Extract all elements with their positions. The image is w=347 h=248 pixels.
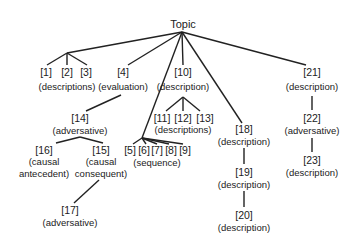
node-id-label: [3] — [80, 67, 92, 78]
node-id-label: [4] — [117, 67, 129, 78]
node-id-label: [5] — [124, 145, 136, 156]
tree-edge — [183, 97, 200, 111]
node-id-label: [16] — [35, 145, 53, 156]
node-relation-label: (description) — [286, 168, 338, 178]
node-id-label: [19] — [235, 167, 253, 178]
node-relation-label: (descriptions) — [154, 125, 211, 135]
node-id-label: [10] — [174, 67, 192, 78]
node-id-label: [2] — [61, 67, 73, 78]
node-id-label: [7] — [151, 145, 163, 156]
tree-edge — [166, 97, 183, 111]
node-relation-label: (causal — [86, 157, 117, 167]
node-relation-label: consequent) — [75, 169, 127, 179]
node-id-label: [13] — [196, 113, 214, 124]
node-id-label: [11] — [154, 113, 171, 124]
tree-edge — [86, 95, 121, 111]
node-relation-label: (evaluation) — [98, 82, 148, 92]
node-id-label: [9] — [179, 145, 191, 156]
node-relation-label: (description) — [286, 82, 338, 92]
node-relation-label: (description) — [157, 82, 209, 92]
node-id-label: [22] — [303, 113, 321, 124]
tree-edge — [74, 180, 99, 203]
node-id-label: [21] — [303, 67, 321, 78]
root-node-topic: Topic — [170, 19, 196, 30]
tree-edge — [182, 32, 183, 65]
node-id-label: [1] — [40, 67, 52, 78]
node-relation-label: (description) — [218, 180, 270, 190]
node-relation-label: antecedent) — [19, 169, 69, 179]
tree-edge — [47, 53, 67, 65]
node-relation-label: (causal — [29, 157, 60, 167]
node-relation-label: (adversative) — [285, 126, 340, 136]
node-id-label: [6] — [138, 145, 150, 156]
node-relation-label: (adversative) — [53, 126, 108, 136]
node-id-label: [23] — [303, 155, 321, 166]
node-id-label: [14] — [71, 113, 89, 124]
node-id-label: [15] — [92, 145, 110, 156]
node-id-label: [20] — [235, 210, 253, 221]
node-relation-label: (description) — [218, 223, 270, 233]
node-id-label: [17] — [61, 205, 79, 216]
tree-edge — [56, 137, 80, 143]
tree-edge — [67, 53, 87, 65]
node-id-label: [18] — [235, 124, 253, 135]
discourse-tree-diagram: Topic[1][2][3][4][10][21][11][12][13][14… — [0, 0, 347, 248]
node-relation-label: (description) — [218, 137, 270, 147]
node-id-label: [12] — [174, 113, 192, 124]
node-relation-label: (sequence) — [133, 158, 181, 168]
node-relation-label: (descriptions) — [38, 82, 95, 92]
node-id-label: [8] — [165, 145, 177, 156]
node-relation-label: (adversative) — [43, 218, 98, 228]
tree-edge — [80, 137, 103, 143]
